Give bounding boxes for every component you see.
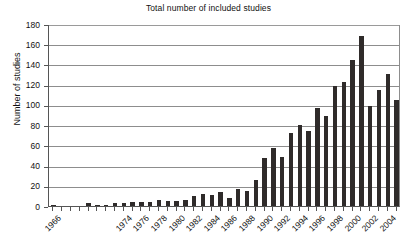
bar	[386, 74, 391, 206]
bar	[298, 125, 303, 206]
bar	[210, 195, 215, 206]
bar	[306, 131, 311, 206]
x-axis-tick	[246, 207, 247, 211]
bar	[271, 148, 276, 206]
bar	[139, 202, 144, 206]
x-axis-tick	[114, 207, 115, 211]
x-axis-tick	[237, 207, 238, 211]
x-axis-tick	[79, 207, 80, 211]
x-axis-tick	[61, 207, 62, 211]
x-axis-tick	[334, 207, 335, 211]
bar	[359, 36, 364, 206]
y-axis-tick	[44, 86, 48, 87]
x-axis-tick	[70, 207, 71, 211]
x-axis-tick	[325, 207, 326, 211]
x-axis-tick	[176, 207, 177, 211]
x-axis-tick	[132, 207, 133, 211]
bar-series	[49, 25, 399, 206]
bar	[280, 157, 285, 206]
bar	[95, 205, 100, 206]
bar	[289, 133, 294, 206]
bar	[113, 203, 118, 206]
bar	[192, 196, 197, 206]
bar	[122, 203, 127, 206]
x-axis-tick	[299, 207, 300, 211]
y-axis-tick-label: 160	[0, 41, 40, 50]
y-axis-tick-label: 180	[0, 21, 40, 30]
x-axis-tick	[387, 207, 388, 211]
chart-container: Total number of included studies Number …	[0, 0, 417, 249]
x-axis-tick	[184, 207, 185, 211]
bar	[245, 191, 250, 206]
bar	[157, 200, 162, 206]
x-axis-tick	[123, 207, 124, 211]
x-axis-tick	[264, 207, 265, 211]
x-axis-tick	[140, 207, 141, 211]
y-axis-tick	[44, 106, 48, 107]
bar	[394, 100, 399, 206]
bar	[51, 205, 56, 206]
bar	[86, 203, 91, 206]
x-axis-tick	[378, 207, 379, 211]
y-axis-tick	[44, 146, 48, 147]
bar	[333, 86, 338, 206]
bar	[262, 158, 267, 206]
x-axis-tick	[158, 207, 159, 211]
bar	[236, 189, 241, 206]
x-axis-tick	[290, 207, 291, 211]
x-axis-tick	[316, 207, 317, 211]
x-axis-tick	[308, 207, 309, 211]
y-axis-tick-label: 80	[0, 122, 40, 131]
x-axis-tick	[167, 207, 168, 211]
bar	[342, 82, 347, 206]
bar	[148, 202, 153, 206]
y-axis-tick	[44, 207, 48, 208]
bar	[254, 180, 259, 206]
bar	[174, 201, 179, 206]
bar	[201, 194, 206, 206]
x-axis-tick-label: 1966	[38, 213, 63, 238]
bar	[324, 116, 329, 206]
bar	[104, 205, 109, 206]
y-axis-tick	[44, 25, 48, 26]
y-axis-tick-label: 60	[0, 142, 40, 151]
x-axis-tick	[369, 207, 370, 211]
y-axis-tick	[44, 126, 48, 127]
x-axis-tick	[281, 207, 282, 211]
bar	[350, 60, 355, 206]
x-axis-tick	[211, 207, 212, 211]
x-axis-tick	[149, 207, 150, 211]
bar	[130, 202, 135, 206]
y-axis-tick-label: 20	[0, 182, 40, 191]
x-axis-tick	[193, 207, 194, 211]
y-axis-tick-label: 100	[0, 101, 40, 110]
y-axis-tick	[44, 187, 48, 188]
y-axis-tick-label: 120	[0, 81, 40, 90]
x-axis-tick	[272, 207, 273, 211]
y-axis-tick-label: 40	[0, 162, 40, 171]
y-axis-tick	[44, 45, 48, 46]
bar	[218, 192, 223, 206]
bar	[368, 106, 373, 206]
chart-title: Total number of included studies	[0, 3, 417, 13]
plot-area	[48, 25, 400, 207]
bar	[227, 198, 232, 206]
x-axis-tick	[52, 207, 53, 211]
y-axis-tick-label: 140	[0, 61, 40, 70]
x-axis-tick	[228, 207, 229, 211]
bar	[377, 90, 382, 206]
x-axis-tick	[105, 207, 106, 211]
x-axis-tick	[220, 207, 221, 211]
x-axis-tick	[343, 207, 344, 211]
y-axis-tick-label: 0	[0, 203, 40, 212]
x-axis-tick	[202, 207, 203, 211]
bar	[166, 201, 171, 206]
y-axis-tick	[44, 167, 48, 168]
x-axis-tick	[396, 207, 397, 211]
y-axis-tick	[44, 65, 48, 66]
x-axis-tick	[88, 207, 89, 211]
bar	[183, 200, 188, 206]
x-axis-tick	[255, 207, 256, 211]
x-axis-tick	[352, 207, 353, 211]
bar	[315, 108, 320, 206]
